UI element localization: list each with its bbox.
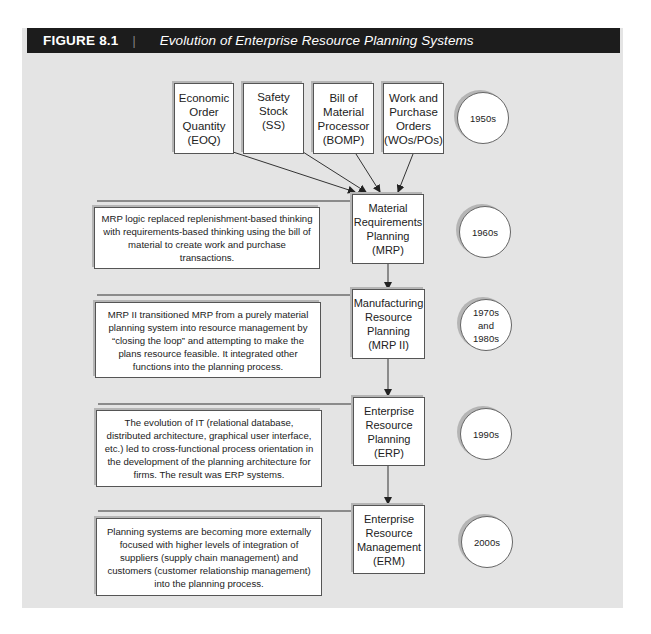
era-circle-1990s: 1990s (460, 408, 512, 460)
arrow-wopo-mrp (398, 154, 413, 192)
stage-box-erp: Enterprise Resource Planning (ERP) (353, 397, 425, 466)
description-mrp2: MRP II transitioned MRP from a purely ma… (95, 302, 321, 378)
arrow-eoq-mrp (233, 152, 355, 192)
arrow-ss-mrp (303, 152, 366, 192)
input-box-eoq: Economic Order Quantity (EOQ) (174, 83, 234, 154)
stage-box-erm: Enterprise Resource Management (ERM) (353, 505, 425, 574)
description-erp: The evolution of IT (relational database… (96, 410, 322, 487)
era-circle-1960s: 1960s (459, 206, 511, 258)
input-box-bomp: Bill of Material Processor (BOMP) (313, 83, 374, 154)
description-mrp: MRP logic replaced replenishment-based t… (94, 207, 320, 269)
input-box-wopo: Work and Purchase Orders (WOs/POs) (383, 83, 444, 154)
arrow-bomp-mrp (356, 154, 380, 192)
era-circle-1970s-1980s: 1970s and 1980s (460, 299, 512, 351)
input-box-ss: Safety Stock (SS) (243, 83, 304, 154)
stage-box-mrp2: Manufacturing Resource Planning (MRP II) (352, 289, 425, 359)
description-erm: Planning systems are becoming more exter… (96, 518, 322, 596)
era-circle-2000s: 2000s (461, 516, 513, 568)
stage-box-mrp: Material Requirements Planning (MRP) (352, 194, 424, 264)
era-circle-1950s: 1950s (457, 92, 509, 144)
